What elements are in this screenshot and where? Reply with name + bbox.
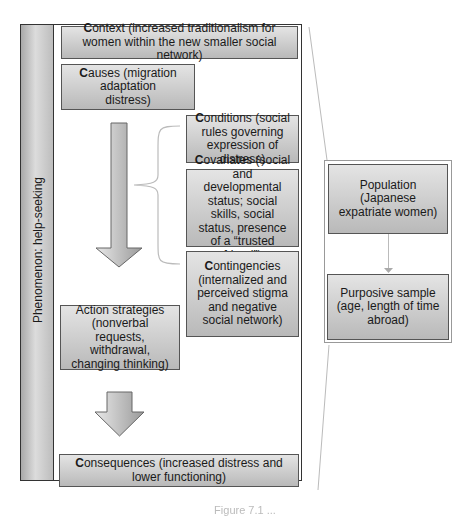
population-text: Population (Japanese expatriate women) xyxy=(335,179,441,220)
population-to-sample-connector xyxy=(388,234,389,272)
purposive-sample-text: Purposive sample (age, length of time ab… xyxy=(334,287,442,328)
figure-caption: Figure 7.1 ... xyxy=(80,504,410,516)
purposive-sample-box: Purposive sample (age, length of time ab… xyxy=(327,274,449,340)
population-box: Population (Japanese expatriate women) xyxy=(328,164,448,234)
